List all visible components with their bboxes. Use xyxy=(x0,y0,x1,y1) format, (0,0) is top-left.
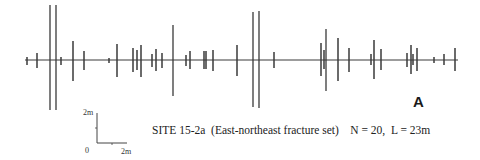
scale-horizontal-label: 2m xyxy=(121,147,131,156)
caption-set: (East-northeast fracture set) xyxy=(211,124,339,136)
scale-vertical-label: 2m xyxy=(83,108,93,117)
caption-stats: N = 20, L = 23m xyxy=(350,124,430,136)
panel-label: A xyxy=(413,93,424,110)
figure-caption: SITE 15-2a (East-northeast fracture set)… xyxy=(152,124,430,136)
fracture-scanline-diagram xyxy=(0,0,480,160)
scale-bar xyxy=(95,113,127,145)
caption-site: SITE 15-2a xyxy=(152,124,205,136)
fracture-traces xyxy=(27,5,455,110)
scale-origin-label: 0 xyxy=(85,146,89,155)
